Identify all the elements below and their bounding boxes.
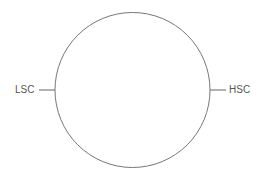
right-label: HSC [229,85,250,95]
left-label: LSC [15,85,34,95]
diagram-canvas [0,0,265,191]
circle-shape [55,13,210,168]
